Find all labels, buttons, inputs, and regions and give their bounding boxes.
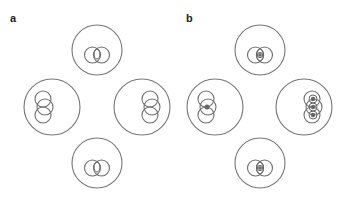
cell-outline [235, 138, 285, 188]
cell-outline [235, 25, 285, 75]
panel-label-a: a [10, 12, 17, 24]
cell-outline [72, 25, 122, 75]
center-marker [205, 105, 210, 110]
cell-right [114, 79, 170, 135]
cell-right [276, 79, 332, 135]
center-marker [258, 53, 262, 57]
panel-b [187, 25, 332, 188]
cell-outline [24, 79, 80, 135]
cell-outline [114, 79, 170, 135]
cell-bottom [235, 138, 285, 188]
center-marker [311, 113, 315, 117]
cell-outline [276, 79, 332, 135]
center-marker [311, 97, 315, 101]
inner-oval [94, 49, 100, 59]
cell-top [72, 25, 122, 75]
center-marker [311, 105, 315, 109]
cell-top [235, 25, 285, 75]
figure-canvas: a b [0, 0, 351, 201]
cell-outline [72, 138, 122, 188]
cell-bottom [72, 138, 122, 188]
center-marker [258, 166, 262, 170]
panel-a [24, 25, 170, 188]
cell-outline [187, 79, 243, 135]
panel-label-b: b [186, 12, 193, 24]
cell-left [187, 79, 243, 135]
cell-left [24, 79, 80, 135]
inner-oval [94, 162, 100, 172]
